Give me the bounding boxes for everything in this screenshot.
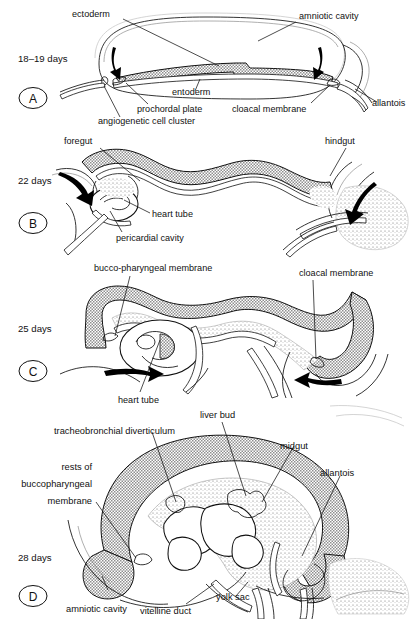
panel-b: 22 days B — [0, 126, 411, 258]
panel-a-letter: A — [29, 92, 37, 106]
label-amniotic-cavity: amniotic cavity — [299, 11, 359, 21]
label-prochordal-plate: prochordal plate — [137, 104, 202, 114]
label-ectoderm: ectoderm — [72, 9, 110, 19]
label-amniotic-cavity-d: amniotic cavity — [66, 604, 127, 614]
label-entoderm: entoderm — [172, 87, 210, 97]
label-rests-line1: rests of — [62, 462, 93, 472]
label-allantois-d: allantois — [320, 468, 354, 478]
label-pericardial-cavity: pericardial cavity — [116, 233, 184, 243]
fold-arrow-left-b — [58, 172, 94, 206]
leader-amniotic-cavity — [258, 22, 296, 41]
label-liver-bud: liver bud — [200, 410, 235, 420]
leader-vitelline — [186, 584, 214, 604]
panel-c-stage: 25 days — [18, 323, 52, 334]
leader-hindgut — [330, 148, 346, 176]
panel-b-drawing: 22 days B — [0, 126, 411, 258]
label-vitelline-duct: vitelline duct — [140, 606, 192, 616]
buccopharyngeal-rests — [134, 554, 152, 565]
label-tracheobronchial-diverticulum: tracheobronchial diverticulum — [54, 426, 175, 436]
label-heart-tube: heart tube — [152, 209, 193, 219]
label-hindgut: hindgut — [325, 136, 355, 146]
body-stalk-left — [64, 214, 108, 255]
leader-ectoderm — [123, 19, 219, 66]
label-angiogenetic-cluster: angiogenetic cell cluster — [98, 116, 195, 126]
fold-arrow-left — [110, 47, 121, 80]
chorion-mass-d — [328, 559, 408, 614]
duct-wall-c1 — [247, 348, 278, 398]
leader-prochordal-plate — [126, 83, 148, 104]
gut-lumen-4 — [168, 537, 201, 570]
yolk-sac-wall-left — [60, 83, 105, 99]
yolk-sac-mass — [336, 186, 408, 250]
panel-c-letter: C — [29, 365, 38, 379]
panel-b-stage: 22 days — [18, 175, 52, 186]
gut-lumen-3 — [232, 535, 263, 568]
panel-d-stage: 28 days — [18, 552, 52, 563]
leader-cloacal-membrane — [311, 85, 330, 103]
label-rests-line2: buccopharyngeal — [21, 479, 92, 489]
figure-root: 18–19 days A — [0, 0, 411, 619]
panel-d-drawing: 28 days D — [0, 404, 411, 619]
panel-a-drawing: 18–19 days A — [0, 0, 411, 128]
panel-a: 18–19 days A — [0, 0, 411, 128]
label-yolk-sac: yolk sac — [216, 592, 250, 602]
yolk-sac-wall-d — [300, 588, 308, 619]
label-cloacal-membrane-c: cloacal membrane — [299, 268, 373, 278]
panel-b-letter: B — [29, 217, 37, 231]
label-allantois: allantois — [372, 98, 406, 108]
label-midgut: midgut — [280, 441, 308, 451]
leader-angiogenetic — [104, 86, 120, 117]
panel-d: 28 days D — [0, 404, 411, 619]
caudal-fold-c — [306, 292, 373, 378]
panel-c: 25 days C — [0, 256, 411, 406]
label-bucco-pharyngeal-membrane: bucco-pharyngeal membrane — [94, 263, 212, 273]
panel-a-stage: 18–19 days — [18, 53, 68, 64]
panel-c-drawing: 25 days C — [0, 256, 411, 406]
yolk-sac-duct — [252, 588, 264, 619]
label-foregut: foregut — [64, 136, 93, 146]
label-rests-line3: membrane — [48, 496, 92, 506]
label-cloacal-membrane: cloacal membrane — [232, 104, 306, 114]
panel-d-letter: D — [29, 590, 38, 604]
allantois-duct — [337, 84, 368, 112]
